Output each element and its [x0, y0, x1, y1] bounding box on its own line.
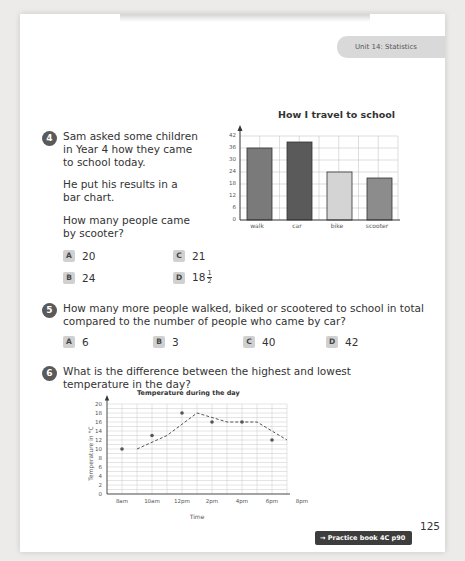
unit-label: Unit 14: Statistics — [337, 36, 445, 58]
bar-chart — [220, 122, 420, 222]
fraction-half: 12 — [207, 270, 211, 285]
q4-option-a[interactable]: A 20 — [63, 250, 95, 262]
q5-option-a[interactable]: A 6 — [63, 336, 89, 348]
question-4-text: Sam asked some children in Year 4 how th… — [63, 130, 198, 169]
question-number-5: 5 — [42, 303, 57, 318]
line-chart-ylabel: Temperature in °C — [87, 419, 94, 489]
q4-option-c[interactable]: C 21 — [173, 250, 205, 262]
question-5-text: How many more people walked, biked or sc… — [63, 302, 424, 328]
q5-option-b[interactable]: B 3 — [153, 336, 179, 348]
textbook-page: Unit 14: Statistics 4 Sam asked some chi… — [20, 14, 445, 552]
question-4-question: How many people came by scooter? — [63, 214, 190, 240]
question-6-text: What is the difference between the highe… — [63, 365, 351, 391]
question-4-text2: He put his results in a bar chart. — [63, 178, 178, 204]
q5-option-c[interactable]: C 40 — [243, 336, 275, 348]
page-number: 125 — [420, 520, 440, 532]
bar-chart-title: How I travel to school — [278, 109, 395, 120]
q4-option-d[interactable]: D 1812 — [173, 270, 212, 285]
question-number-4: 4 — [42, 131, 57, 146]
practice-book-link[interactable]: → Practice book 4C p90 — [315, 531, 412, 545]
q5-option-d[interactable]: D 42 — [326, 336, 358, 348]
line-chart — [80, 394, 300, 506]
question-number-6: 6 — [42, 366, 57, 381]
line-chart-xlabel: Time — [167, 513, 227, 520]
q4-option-b[interactable]: B 24 — [63, 272, 95, 284]
page-shadow — [120, 14, 370, 22]
